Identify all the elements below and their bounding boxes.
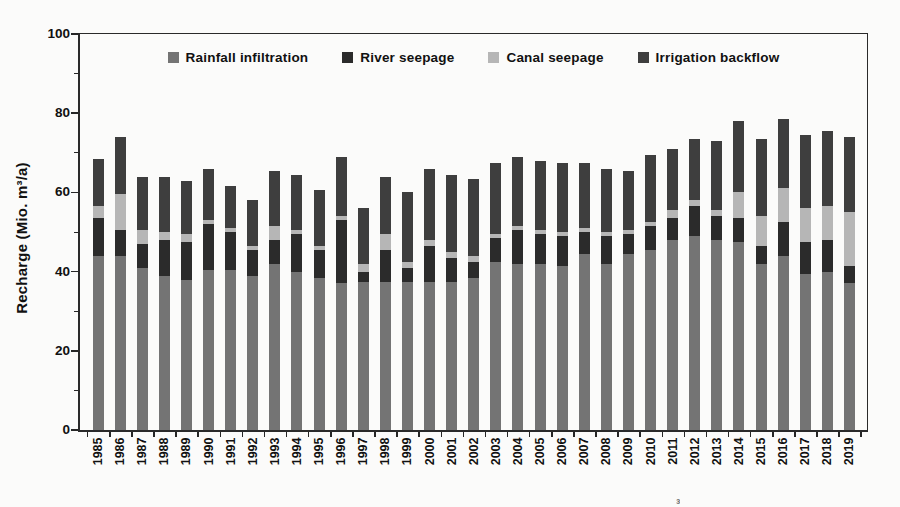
bar-segment-2005 [535, 264, 546, 430]
bar-segment-2014 [733, 218, 744, 242]
bar-segment-1991 [225, 232, 236, 270]
x-tick [131, 432, 133, 437]
bar-segment-2013 [711, 210, 722, 216]
x-tick [595, 432, 597, 437]
y-tick-label: 100 [32, 26, 70, 41]
bar-segment-2002 [468, 278, 479, 430]
x-tick-label-2001: 2001 [445, 438, 458, 486]
bar-segment-2007 [579, 254, 590, 430]
y-tick-label: 40 [32, 264, 70, 279]
x-tick [573, 432, 575, 437]
legend-swatch-irrigation-icon [638, 52, 649, 63]
bar-segment-2006 [557, 266, 568, 430]
x-tick [264, 432, 266, 437]
x-tick [374, 432, 376, 437]
x-tick-label-2011: 2011 [666, 438, 679, 486]
legend-swatch-river-icon [342, 52, 353, 63]
bar-segment-2011 [667, 210, 678, 218]
bar-segment-2014 [733, 242, 744, 430]
bar-segment-1991 [225, 186, 236, 228]
bar-segment-2001 [446, 282, 457, 431]
legend-swatch-canal-icon [488, 52, 499, 63]
bar-segment-1986 [115, 230, 126, 256]
bar-segment-2016 [778, 256, 789, 430]
plot-area: Rainfall infiltration River seepage Cana… [78, 33, 868, 432]
x-tick-label-1998: 1998 [379, 438, 392, 486]
bar-segment-1990 [203, 220, 214, 224]
legend-label: Rainfall infiltration [186, 50, 309, 65]
bar-segment-2018 [822, 240, 833, 272]
bar-segment-1986 [115, 256, 126, 430]
bar-segment-1995 [314, 246, 325, 250]
legend-item-rainfall-infiltration: Rainfall infiltration [168, 50, 309, 65]
x-tick-label-2010: 2010 [644, 438, 657, 486]
bar-segment-2002 [468, 179, 479, 256]
bar-segment-1989 [181, 242, 192, 280]
bar-segment-2010 [645, 250, 656, 430]
bar-segment-1986 [115, 137, 126, 194]
bar-segment-1992 [247, 250, 258, 276]
legend-item-irrigation-backflow: Irrigation backflow [638, 50, 780, 65]
bar-segment-1985 [93, 218, 104, 256]
bar-segment-1991 [225, 270, 236, 430]
bar-segment-2007 [579, 163, 590, 228]
bar-segment-1988 [159, 232, 170, 240]
bar-segment-1997 [358, 264, 369, 272]
bar-segment-2007 [579, 228, 590, 232]
bar-segment-2003 [490, 234, 501, 238]
bar-segment-2013 [711, 240, 722, 430]
x-tick-label-1987: 1987 [136, 438, 149, 486]
legend-item-canal-seepage: Canal seepage [488, 50, 603, 65]
bar-segment-1992 [247, 276, 258, 430]
bar-segment-1998 [380, 250, 391, 282]
y-tick-label: 20 [32, 343, 70, 358]
bar-segment-1992 [247, 246, 258, 250]
y-major-tick [71, 112, 78, 114]
x-tick [153, 432, 155, 437]
x-tick [485, 432, 487, 437]
bar-segment-2009 [623, 171, 634, 230]
y-major-tick [71, 271, 78, 273]
bar-segment-2018 [822, 206, 833, 240]
x-tick-label-2018: 2018 [821, 438, 834, 486]
bar-segment-1993 [269, 226, 280, 240]
bar-segment-2008 [601, 169, 612, 232]
x-tick-label-2017: 2017 [799, 438, 812, 486]
x-tick-label-1995: 1995 [313, 438, 326, 486]
bar-segment-2009 [623, 230, 634, 234]
x-tick-label-1986: 1986 [114, 438, 127, 486]
bar-segment-1999 [402, 282, 413, 431]
x-tick [87, 432, 89, 437]
bar-segment-2000 [424, 246, 435, 282]
legend-label: Irrigation backflow [656, 50, 780, 65]
bar-segment-2015 [756, 216, 767, 246]
x-tick-label-2016: 2016 [777, 438, 790, 486]
x-tick-label-1992: 1992 [246, 438, 259, 486]
bar-segment-2001 [446, 252, 457, 258]
bar-segment-1995 [314, 190, 325, 245]
bar-segment-2009 [623, 234, 634, 254]
y-axis-title: Recharge (Mio. m³/a) [13, 128, 31, 348]
bar-segment-1987 [137, 244, 148, 268]
x-tick [441, 432, 443, 437]
x-tick [772, 432, 774, 437]
x-tick [617, 432, 619, 437]
x-tick-label-1996: 1996 [335, 438, 348, 486]
legend: Rainfall infiltration River seepage Cana… [80, 50, 867, 65]
x-tick [308, 432, 310, 437]
x-tick [860, 432, 862, 437]
bar-segment-1998 [380, 234, 391, 250]
x-tick-label-1985: 1985 [92, 438, 105, 486]
bar-segment-1990 [203, 270, 214, 430]
bar-segment-2008 [601, 232, 612, 236]
bar-segment-2017 [800, 242, 811, 274]
bar-segment-2016 [778, 188, 789, 222]
bar-segment-1985 [93, 206, 104, 218]
cropped-caption-fragment: ³ [676, 496, 680, 507]
legend-item-river-seepage: River seepage [342, 50, 454, 65]
bar-segment-2007 [579, 232, 590, 254]
x-tick [551, 432, 553, 437]
bar-segment-1994 [291, 230, 302, 234]
x-tick [838, 432, 840, 437]
bar-segment-1986 [115, 194, 126, 230]
